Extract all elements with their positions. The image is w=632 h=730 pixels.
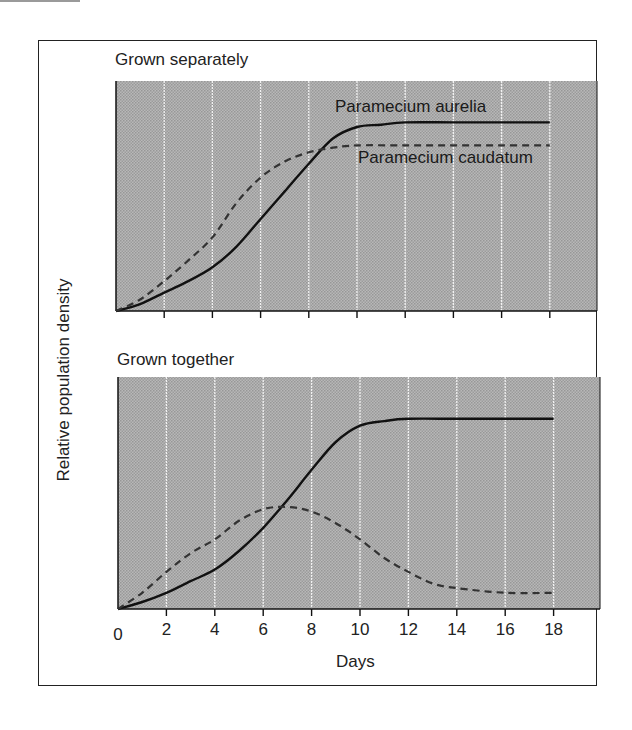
plot-grown-together: [118, 377, 600, 616]
x-tick-label: 4: [210, 620, 219, 640]
x-tick-label: 6: [258, 620, 267, 640]
plot-background: [118, 377, 600, 609]
x-tick-label: 0: [113, 625, 122, 645]
x-tick-label: 10: [351, 620, 370, 640]
x-tick-label: 14: [447, 620, 466, 640]
label-aurelia: Paramecium aurelia: [335, 97, 487, 116]
label-caudatum: Paramecium caudatum: [358, 148, 533, 167]
x-tick-label: 12: [399, 620, 418, 640]
x-axis-label: Days: [336, 652, 375, 672]
plot-grown-separately: Paramecium aureliaParamecium caudatum: [116, 81, 597, 318]
x-tick-label: 2: [162, 620, 171, 640]
x-tick-label: 16: [496, 620, 515, 640]
x-tick-label: 8: [307, 620, 316, 640]
x-tick-label: 18: [544, 620, 563, 640]
